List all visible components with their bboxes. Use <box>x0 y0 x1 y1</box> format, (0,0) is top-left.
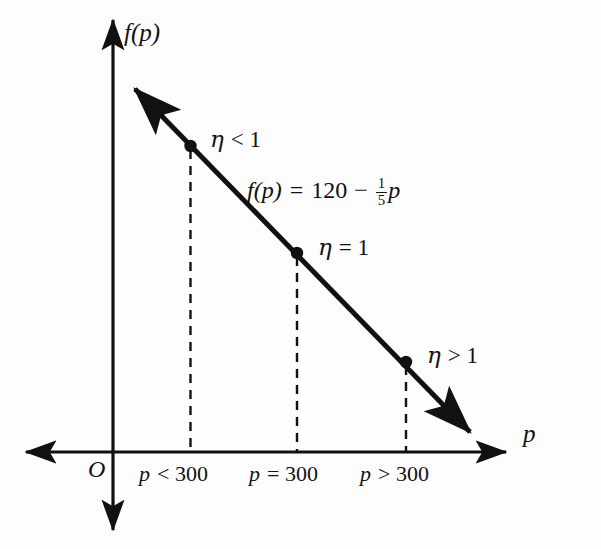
eta-relation-3: > 1 <box>448 343 478 368</box>
tick-label-price-equals-300: p= 300 <box>249 463 318 485</box>
annotation-inelastic: η> 1 <box>427 344 478 367</box>
demand-line <box>152 106 456 418</box>
data-point-elastic <box>184 140 196 152</box>
annotation-unit-elastic: η= 1 <box>318 236 369 259</box>
x-axis-label: p <box>523 421 536 446</box>
eta-relation-2: = 1 <box>339 235 369 260</box>
equation-intercept: 120 <box>311 177 347 203</box>
demand-line-arrow-upper <box>135 89 163 117</box>
equation-minus: − <box>354 177 368 203</box>
data-point-unit-elastic <box>291 247 303 259</box>
eta-symbol-2: η <box>318 234 332 260</box>
eta-symbol-3: η <box>427 342 441 368</box>
tick-relation-2: = 300 <box>267 461 318 486</box>
fraction-denominator: 5 <box>376 193 387 209</box>
function-equation: f(p)=120−15p <box>247 176 400 208</box>
equation-variable: p <box>388 177 400 203</box>
demand-line-arrow-lower <box>445 407 470 432</box>
tick-variable-3: p <box>360 461 371 486</box>
origin-label: O <box>88 457 105 481</box>
elasticity-figure: f(p) p O η< 1 η= 1 η> 1 f(p)=120−15p p< … <box>0 0 601 549</box>
tick-variable-2: p <box>249 461 260 486</box>
y-axis-label: f(p) <box>124 20 160 45</box>
equation-fraction: 15 <box>376 176 387 208</box>
tick-variable-1: p <box>139 461 150 486</box>
fraction-numerator: 1 <box>376 176 387 193</box>
equation-equals: = <box>290 177 304 203</box>
tick-label-price-above-300: p> 300 <box>360 463 429 485</box>
tick-label-price-below-300: p< 300 <box>139 463 208 485</box>
tick-relation-1: < 300 <box>157 461 208 486</box>
eta-symbol-1: η <box>210 126 224 152</box>
annotation-elastic: η< 1 <box>210 128 261 151</box>
eta-relation-1: < 1 <box>231 127 261 152</box>
tick-relation-3: > 300 <box>378 461 429 486</box>
equation-lhs: f(p) <box>247 177 282 203</box>
data-point-inelastic <box>400 356 412 368</box>
